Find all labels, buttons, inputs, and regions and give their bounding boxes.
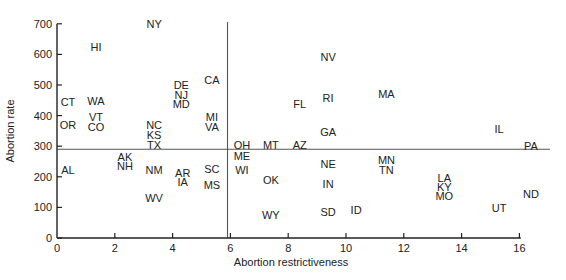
state-label-ia: IA <box>178 176 189 188</box>
state-label-az: AZ <box>293 139 307 151</box>
x-tick-label: 12 <box>398 242 410 254</box>
state-label-ne: NE <box>320 158 335 170</box>
state-label-ut: UT <box>492 202 507 214</box>
state-label-pa: PA <box>524 140 539 152</box>
state-label-or: OR <box>60 119 77 131</box>
state-label-wv: WV <box>145 192 163 204</box>
reference-lines <box>57 22 550 238</box>
state-label-wa: WA <box>87 95 105 107</box>
state-label-md: MD <box>173 98 190 110</box>
state-label-al: AL <box>61 164 74 176</box>
x-tick-label: 16 <box>513 242 525 254</box>
state-label-nd: ND <box>523 188 539 200</box>
state-label-tx: TX <box>147 139 162 151</box>
state-label-nh: NH <box>117 160 133 172</box>
state-label-id: ID <box>351 204 362 216</box>
state-label-ga: GA <box>320 126 337 138</box>
x-tick-label: 6 <box>227 242 233 254</box>
y-tick-label: 400 <box>34 110 52 122</box>
state-label-ms: MS <box>204 179 221 191</box>
y-axis-title: Abortion rate <box>4 100 16 163</box>
y-tick-label: 700 <box>34 18 52 30</box>
state-label-in: IN <box>323 178 334 190</box>
state-label-va: VA <box>205 121 220 133</box>
state-label-ri: RI <box>323 92 334 104</box>
x-tick-label: 4 <box>170 242 176 254</box>
state-label-mo: MO <box>435 190 453 202</box>
y-tick-label: 100 <box>34 201 52 213</box>
state-label-ca: CA <box>204 74 220 86</box>
data-points: NYHICTWAVTCOORNCKSTXDENJMDCAMIVAOHMTAZFL… <box>60 18 539 221</box>
x-tick-label: 0 <box>54 242 60 254</box>
state-label-fl: FL <box>293 98 306 110</box>
state-label-sd: SD <box>320 206 335 218</box>
y-tick-label: 600 <box>34 48 52 60</box>
y-tick-label: 500 <box>34 79 52 91</box>
state-label-mt: MT <box>263 139 279 151</box>
state-label-tn: TN <box>379 164 394 176</box>
state-label-nm: NM <box>146 164 163 176</box>
state-label-wi: WI <box>235 164 248 176</box>
state-label-ok: OK <box>263 174 280 186</box>
state-label-nv: NV <box>320 51 336 63</box>
state-label-ma: MA <box>378 88 395 100</box>
x-tick-label: 8 <box>285 242 291 254</box>
x-tick-label: 14 <box>455 242 467 254</box>
x-axis-title: Abortion restrictiveness <box>234 256 349 268</box>
state-label-ny: NY <box>146 18 162 30</box>
state-label-hi: HI <box>91 41 102 53</box>
x-tick-label: 2 <box>112 242 118 254</box>
state-label-ct: CT <box>61 96 76 108</box>
y-tick-label: 0 <box>46 232 52 244</box>
state-label-sc: SC <box>204 163 219 175</box>
state-label-wy: WY <box>262 209 280 221</box>
state-label-co: CO <box>88 121 105 133</box>
x-tick-label: 10 <box>340 242 352 254</box>
state-label-il: IL <box>495 123 504 135</box>
scatter-chart: 01002003004005006007000246810121416 NYHI… <box>0 0 566 280</box>
y-tick-label: 200 <box>34 171 52 183</box>
state-label-me: ME <box>234 150 251 162</box>
y-tick-label: 300 <box>34 140 52 152</box>
